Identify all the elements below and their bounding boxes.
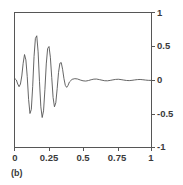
xtick-2 [83,148,84,151]
xtick-label-2: 0.5 [76,153,89,163]
xtick-label-1: 0.25 [40,153,59,163]
ytick-4 [152,147,155,148]
ytick-2 [152,80,155,81]
ytick-label-2: 0 [157,75,162,85]
panel-caption: (b) [11,168,23,178]
plot-frame [14,12,152,148]
waveform-plot [15,13,151,147]
ytick-1 [152,46,155,47]
ytick-label-1: 0.5 [157,41,170,51]
ytick-3 [152,114,155,115]
xtick-label-4: 1 [148,153,153,163]
xtick-3 [118,148,119,151]
xtick-label-3: 0.75 [108,153,127,163]
ytick-label-0: 1 [157,8,162,18]
xtick-4 [151,148,152,151]
ytick-label-3: -0.5 [157,109,173,119]
figure-panel-b: 0 0.25 0.5 0.75 1 1 0.5 0 -0.5 -1 (b) [0,0,183,185]
waveform-line [15,36,151,118]
xtick-1 [49,148,50,151]
ytick-label-4: -1 [157,142,165,152]
xtick-label-0: 0 [12,153,17,163]
ytick-0 [152,12,155,13]
xtick-0 [14,148,15,151]
